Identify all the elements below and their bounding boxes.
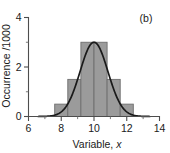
y-tick-label: 4 [16,11,22,23]
y-axis-tick-labels: 024 [16,11,22,122]
histogram-bar [94,42,107,116]
x-axis-title: Variable, x [73,138,123,150]
x-axis-title-text: Variable, [73,138,117,150]
x-tick-label: 14 [154,122,166,134]
x-tick-label: 12 [121,122,133,134]
x-tick-label: 8 [58,122,64,134]
histogram-bar [68,79,81,116]
x-axis-title-symbol: x [115,138,122,150]
figure-panel-b: 68101214 024 Variable, x Occurrence /100… [0,0,170,153]
y-axis-title: Occurrence /1000 [0,24,12,108]
histogram-bar [107,79,120,116]
x-tick-label: 6 [26,122,32,134]
y-tick-label: 2 [16,61,22,73]
x-axis-tick-labels: 68101214 [26,122,166,134]
y-tick-label: 0 [16,110,22,122]
x-tick-label: 10 [88,122,100,134]
panel-label: (b) [140,12,153,24]
histogram-plot: 68101214 024 Variable, x Occurrence /100… [0,0,170,153]
histogram-bar [81,42,94,116]
